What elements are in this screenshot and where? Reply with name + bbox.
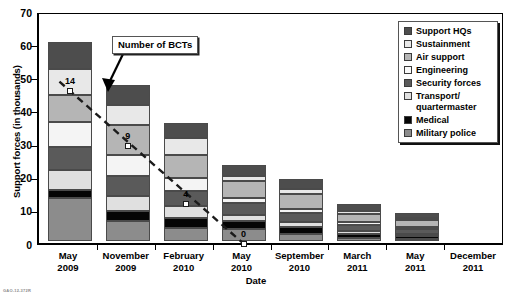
bar-segment[interactable] [395, 213, 439, 218]
bar-segment[interactable] [395, 234, 439, 237]
bar-segment[interactable] [48, 147, 92, 170]
bar-segment[interactable] [106, 176, 150, 196]
bar-segment[interactable] [395, 239, 439, 241]
bar-segment[interactable] [279, 179, 323, 189]
y-tick-label: 20 [0, 173, 32, 184]
bct-marker[interactable] [241, 241, 247, 247]
bar-segment[interactable] [337, 222, 381, 225]
bar-segment[interactable] [337, 225, 381, 231]
bar-segment[interactable] [337, 231, 381, 234]
x-category-line: May [386, 250, 444, 262]
bar-segment[interactable] [279, 213, 323, 222]
bct-value-label: 4 [176, 189, 196, 199]
bar-segment[interactable] [106, 211, 150, 221]
legend-item-label: Transport/ quartermaster [416, 91, 477, 112]
bar-segment[interactable] [395, 220, 439, 227]
bar-segment[interactable] [279, 227, 323, 234]
legend-item-label: Support HQs [416, 26, 472, 37]
bar-group[interactable] [222, 9, 266, 241]
bar-segment[interactable] [164, 123, 208, 138]
bar-segment[interactable] [395, 227, 439, 229]
y-tick-label: 0 [0, 240, 32, 251]
bar-group[interactable] [48, 9, 92, 241]
legend-item[interactable]: Transport/ quartermaster [404, 91, 493, 112]
y-tick-label: 70 [0, 8, 32, 19]
legend-item[interactable]: Medical [404, 115, 493, 126]
bar-segment[interactable] [48, 122, 92, 147]
legend-item-label: Engineering [416, 65, 468, 76]
y-tick-label: 10 [0, 206, 32, 217]
stacked-bar[interactable] [106, 85, 150, 241]
bar-segment[interactable] [395, 236, 439, 239]
bar-segment[interactable] [48, 95, 92, 122]
stacked-bar[interactable] [337, 204, 381, 241]
bar-group[interactable] [279, 9, 323, 241]
legend-item[interactable]: Support HQs [404, 26, 493, 37]
stacked-bar[interactable] [48, 42, 92, 241]
x-category-label: March2011 [328, 250, 386, 273]
legend-item[interactable]: Air support [404, 52, 493, 63]
stacked-bar[interactable] [279, 179, 323, 241]
x-category-line: 2009 [97, 262, 155, 274]
legend-item-label: Sustainment [416, 39, 470, 50]
x-category-line: 2011 [328, 262, 386, 274]
chart-figure: Support forces (in thousands) 0102030405… [0, 0, 512, 300]
bar-segment[interactable] [279, 234, 323, 241]
bct-marker[interactable] [183, 201, 189, 207]
bar-segment[interactable] [222, 215, 266, 222]
legend-item-label: Medical [416, 115, 449, 126]
bar-segment[interactable] [164, 218, 208, 228]
bar-segment[interactable] [48, 42, 92, 69]
bar-segment[interactable] [48, 190, 92, 198]
bar-segment[interactable] [337, 238, 381, 241]
bct-marker[interactable] [125, 143, 131, 149]
bar-segment[interactable] [222, 198, 266, 203]
legend-swatch-medical [404, 116, 412, 124]
bct-marker[interactable] [67, 88, 73, 94]
bar-segment[interactable] [222, 165, 266, 177]
legend-item[interactable]: Military police [404, 128, 493, 139]
bct-value-label: 14 [60, 76, 80, 86]
legend-item[interactable]: Sustainment [404, 39, 493, 50]
legend-item-label: Air support [416, 52, 465, 63]
x-category-label: November2009 [97, 250, 155, 273]
bar-segment[interactable] [222, 203, 266, 215]
bar-segment[interactable] [395, 218, 439, 221]
bar-segment[interactable] [279, 194, 323, 209]
bar-segment[interactable] [48, 170, 92, 190]
bct-value-label: 0 [234, 229, 254, 239]
x-category-line: November [97, 250, 155, 262]
legend-swatch-transport-quartermaster [404, 92, 412, 100]
x-category-line: May [213, 250, 271, 262]
bar-segment[interactable] [106, 221, 150, 241]
stacked-bar[interactable] [395, 213, 439, 241]
bar-segment[interactable] [106, 196, 150, 211]
bar-segment[interactable] [279, 209, 323, 213]
legend-item[interactable]: Engineering [404, 65, 493, 76]
bar-segment[interactable] [395, 229, 439, 234]
bar-segment[interactable] [279, 189, 323, 194]
legend-item[interactable]: Security forces [404, 78, 493, 89]
x-category-line: 2010 [155, 262, 213, 274]
bar-segment[interactable] [164, 138, 208, 155]
bar-segment[interactable] [106, 105, 150, 125]
legend-swatch-military-police [404, 129, 412, 137]
bar-segment[interactable] [164, 206, 208, 218]
legend-swatch-sustainment [404, 40, 412, 48]
bar-segment[interactable] [164, 155, 208, 178]
bar-segment[interactable] [222, 181, 266, 198]
bar-segment[interactable] [106, 85, 150, 105]
y-tick-mark [31, 179, 37, 180]
bar-segment[interactable] [337, 214, 381, 222]
bar-segment[interactable] [222, 176, 266, 181]
x-axis-title: Date [0, 275, 512, 286]
bar-segment[interactable] [164, 228, 208, 241]
stacked-bar[interactable] [164, 123, 208, 241]
bar-segment[interactable] [337, 204, 381, 211]
bar-segment[interactable] [337, 211, 381, 214]
bar-segment[interactable] [279, 222, 323, 227]
bar-segment[interactable] [106, 155, 150, 177]
bar-segment[interactable] [337, 234, 381, 237]
bar-segment[interactable] [48, 198, 92, 241]
bar-group[interactable] [337, 9, 381, 241]
